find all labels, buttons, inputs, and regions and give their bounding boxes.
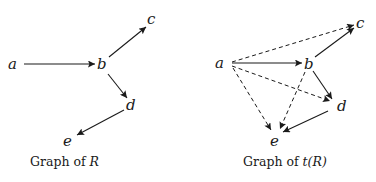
node-b: b: [304, 55, 314, 73]
caption-graph-r: Graph of R: [30, 154, 99, 169]
graph-t-r: a b c d e Graph of t(R): [215, 14, 365, 169]
edge-a-c-transitive: [232, 25, 354, 62]
edge-d-e: [77, 110, 124, 135]
edge-b-d: [108, 74, 127, 98]
edge-a-e-transitive: [233, 68, 271, 130]
node-b: b: [97, 55, 107, 73]
edge-b-e-transitive: [280, 72, 305, 129]
node-d: d: [337, 97, 347, 115]
node-a: a: [215, 54, 224, 72]
edge-b-c: [109, 27, 146, 57]
caption-graph-t-r: Graph of t(R): [243, 154, 327, 169]
graph-r: a b c d e Graph of R: [8, 10, 156, 169]
node-a: a: [8, 55, 17, 73]
edge-b-c: [315, 28, 354, 57]
node-e: e: [270, 132, 279, 150]
edge-b-d: [313, 71, 332, 99]
node-e: e: [63, 132, 72, 150]
edge-a-d-transitive: [232, 66, 330, 101]
edge-d-e: [283, 111, 328, 132]
node-c: c: [147, 10, 156, 28]
relation-graphs-figure: a b c d e Graph of R a b c d e Graph of …: [0, 0, 376, 182]
node-d: d: [126, 96, 136, 114]
node-c: c: [356, 14, 365, 32]
